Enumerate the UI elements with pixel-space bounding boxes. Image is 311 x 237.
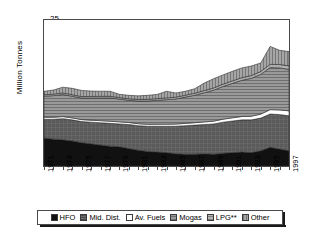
legend-swatch-icon — [126, 214, 133, 221]
legend-label: Other — [251, 214, 270, 222]
legend-item[interactable]: Av. Fuels — [126, 214, 166, 222]
x-axis-tick-mark — [129, 167, 130, 170]
x-axis-tick-mark — [101, 167, 102, 170]
legend-label: Mogas — [179, 214, 202, 222]
x-axis-tick-mark — [195, 167, 196, 170]
y-axis-title: Million Tonnes — [15, 8, 24, 128]
x-axis-tick-mark — [261, 167, 262, 170]
x-axis-tick-mark — [53, 167, 54, 170]
legend-shadow — [40, 225, 286, 227]
legend-item[interactable]: Mid. Dist. — [80, 214, 120, 222]
x-axis-tick-mark — [176, 167, 177, 170]
legend-swatch-icon — [80, 214, 87, 221]
plot-svg — [44, 20, 289, 166]
x-axis-tick-mark — [167, 167, 168, 170]
x-axis-tick-mark — [204, 167, 205, 170]
x-axis-tick-mark — [289, 167, 290, 170]
x-axis-tick-mark — [72, 167, 73, 170]
legend-swatch-icon — [51, 214, 58, 221]
x-axis-tick-mark — [214, 167, 215, 170]
x-axis-tick-label: 1997 — [292, 155, 300, 172]
x-axis-tick-mark — [242, 167, 243, 170]
x-axis-tick-mark — [44, 167, 45, 170]
x-axis-tick-mark — [280, 167, 281, 170]
legend-item[interactable]: Other — [242, 214, 270, 222]
legend-item[interactable]: LPG** — [207, 214, 237, 222]
x-axis-tick-mark — [82, 167, 83, 170]
x-axis-tick-mark — [157, 167, 158, 170]
legend-swatch-icon — [242, 214, 249, 221]
legend-label: HFO — [60, 214, 76, 222]
legend-label: Mid. Dist. — [89, 214, 120, 222]
x-axis-tick-mark — [91, 167, 92, 170]
legend-swatch-icon — [170, 214, 177, 221]
x-axis: 1971197319751977197919811983198519871989… — [43, 167, 290, 207]
x-axis-tick-mark — [63, 167, 64, 170]
stacked-area-chart: Million Tonnes 2520151050 — [0, 0, 311, 237]
plot-area — [43, 19, 290, 167]
x-axis-tick-mark — [185, 167, 186, 170]
x-axis-tick-mark — [148, 167, 149, 170]
x-axis-tick-mark — [110, 167, 111, 170]
legend-item[interactable]: HFO — [51, 214, 76, 222]
legend-label: Av. Fuels — [135, 214, 166, 222]
x-axis-tick-mark — [270, 167, 271, 170]
legend-label: LPG** — [216, 214, 237, 222]
x-axis-tick-mark — [223, 167, 224, 170]
chart-legend: HFOMid. Dist.Av. FuelsMogasLPG**Other — [37, 210, 283, 225]
legend-shadow-right — [283, 212, 285, 227]
legend-item[interactable]: Mogas — [170, 214, 202, 222]
legend-swatch-icon — [207, 214, 214, 221]
